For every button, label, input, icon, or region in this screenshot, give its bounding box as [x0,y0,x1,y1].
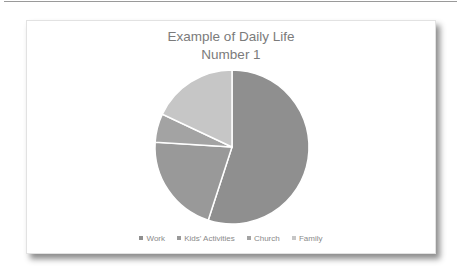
chart-legend: Work Kids' Activities Church Family [27,234,435,243]
legend-label-work: Work [146,234,165,243]
legend-item-church: Church [247,234,280,243]
legend-swatch-kids-activities [177,236,181,240]
legend-label-kids-activities: Kids' Activities [184,234,234,243]
legend-label-church: Church [254,234,280,243]
pie-chart [27,21,435,253]
legend-label-family: Family [299,234,323,243]
pie-slices [155,70,309,224]
legend-swatch-church [247,236,251,240]
legend-item-work: Work [139,234,165,243]
legend-item-family: Family [292,234,323,243]
chart-card: Example of Daily Life Number 1 Work Kids… [26,20,436,254]
legend-swatch-work [139,236,143,240]
legend-swatch-family [292,236,296,240]
top-rule [4,1,457,2]
legend-item-kids-activities: Kids' Activities [177,234,234,243]
